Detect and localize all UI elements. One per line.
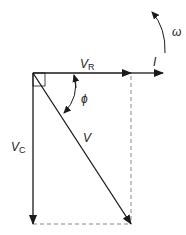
phi-angle-arc-start (74, 75, 76, 88)
omega-label: ω (172, 25, 181, 39)
phi-label: ϕ (81, 92, 88, 106)
vc-label: VC (11, 140, 26, 155)
phasor-diagram: VR I ω ϕ V VC (0, 0, 186, 235)
omega-rotation-arrow (152, 12, 165, 53)
i-label: I (153, 55, 157, 69)
v-label: V (83, 131, 92, 145)
phi-angle-arc (64, 76, 76, 113)
vr-label: VR (80, 57, 95, 72)
